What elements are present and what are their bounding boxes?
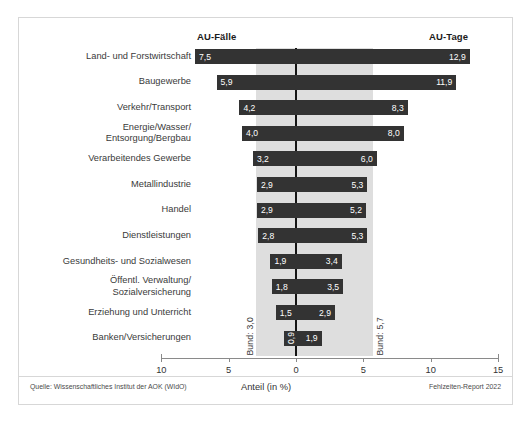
bund-right-annotation: Bund: 5,7 <box>375 317 385 356</box>
bar-row: Metallindustrie2,95,3 <box>19 177 513 192</box>
diverging-bar: 1,83,5 <box>272 279 343 294</box>
chart-figure: AU-Fälle AU-Tage Land- und Forstwirtscha… <box>18 17 513 405</box>
diverging-bar: 2,95,2 <box>257 203 366 218</box>
plot-area: Land- und Forstwirtschaft7,512,9Baugewer… <box>19 48 513 358</box>
bar-value-left: 3,2 <box>257 154 269 164</box>
x-axis-tick-label: 0 <box>293 365 298 375</box>
category-label: Land- und Forstwirtschaft <box>86 51 191 63</box>
category-label: Banken/Versicherungen <box>92 332 191 344</box>
bar-row: Verkehr/Transport4,28,3 <box>19 100 513 115</box>
diverging-bar: 7,512,9 <box>195 49 470 64</box>
bar-row: Baugewerbe5,911,9 <box>19 75 513 90</box>
bar-value-left: 5,9 <box>221 77 233 87</box>
bar-value-right: 5,2 <box>350 205 362 215</box>
bar-value-right: 2,9 <box>319 308 331 318</box>
bar-value-right: 1,9 <box>306 333 318 343</box>
diverging-bar: 2,85,3 <box>258 228 367 243</box>
x-axis-tick <box>229 358 230 362</box>
category-label: Öffentl. Verwaltung/ Sozialversicherung <box>110 275 191 298</box>
x-axis-tick-label: 10 <box>426 365 436 375</box>
bar-value-right: 6,0 <box>361 154 373 164</box>
x-axis-tick-label: 15 <box>493 365 503 375</box>
bund-left-annotation: Bund: 3,0 <box>245 317 255 356</box>
bar-value-right: 12,9 <box>449 52 466 62</box>
bar-value-right: 8,3 <box>392 103 404 113</box>
x-axis: 105051015 Anteil (in %) <box>19 358 513 404</box>
category-label: Energie/Wasser/ Entsorgung/Bergbau <box>106 122 191 145</box>
diverging-bar: 1,93,4 <box>270 254 341 269</box>
x-axis-tick <box>431 358 432 362</box>
bar-value-left: 2,9 <box>261 205 273 215</box>
diverging-bar: 3,26,0 <box>253 151 377 166</box>
bar-value-left: 0,9 <box>286 332 296 344</box>
bar-value-left: 2,9 <box>261 180 273 190</box>
bar-row: Erziehung und Unterricht1,52,9 <box>19 305 513 320</box>
legend-label-au-tage: AU-Tage <box>429 31 468 42</box>
x-axis-tick <box>161 358 162 362</box>
category-label: Metallindustrie <box>131 179 191 191</box>
category-label: Erziehung und Unterricht <box>88 307 191 319</box>
bar-value-right: 3,5 <box>327 282 339 292</box>
bar-row: Land- und Forstwirtschaft7,512,9 <box>19 49 513 64</box>
report-note: Fehlzeiten-Report 2022 <box>429 383 501 390</box>
diverging-bar: 1,52,9 <box>276 305 335 320</box>
bar-row: Handel2,95,2 <box>19 203 513 218</box>
x-axis-tick-label: 10 <box>156 365 166 375</box>
bar-value-right: 8,0 <box>388 128 400 138</box>
bar-row: Dienstleistungen2,85,3 <box>19 228 513 243</box>
diverging-bar: 2,95,3 <box>257 177 367 192</box>
x-axis-tick-label: 5 <box>226 365 231 375</box>
category-label: Dienstleistungen <box>122 230 191 242</box>
bar-value-right: 11,9 <box>436 77 452 87</box>
bar-value-right: 5,3 <box>351 180 363 190</box>
diverging-bar: 4,08,0 <box>242 126 404 141</box>
x-axis-tick <box>363 358 364 362</box>
source-note: Quelle: Wissenschaftliches Institut der … <box>30 383 187 390</box>
legend-label-au-faelle: AU-Fälle <box>197 31 236 42</box>
bar-row: Banken/Versicherungen0,91,9 <box>19 331 513 346</box>
x-axis-tick <box>498 358 499 362</box>
bar-row: Energie/Wasser/ Entsorgung/Bergbau4,08,0 <box>19 126 513 141</box>
bar-value-left: 4,0 <box>246 128 258 138</box>
bar-row: Gesundheits- und Sozialwesen1,93,4 <box>19 254 513 269</box>
x-axis-tick-label: 5 <box>361 365 366 375</box>
bar-value-left: 1,9 <box>274 256 286 266</box>
bar-value-left: 1,8 <box>276 282 288 292</box>
bar-value-left: 4,2 <box>243 103 255 113</box>
bar-row: Verarbeitendes Gewerbe3,26,0 <box>19 151 513 166</box>
category-label: Gesundheits- und Sozialwesen <box>63 256 191 268</box>
diverging-bar: 5,911,9 <box>217 75 457 90</box>
bar-value-right: 3,4 <box>326 256 338 266</box>
diverging-bar: 0,91,9 <box>284 331 322 346</box>
x-axis-line <box>161 358 498 359</box>
category-label: Verkehr/Transport <box>117 102 191 114</box>
diverging-bar: 4,28,3 <box>239 100 407 115</box>
category-label: Verarbeitendes Gewerbe <box>88 153 191 165</box>
category-label: Handel <box>162 204 191 216</box>
bar-value-left: 1,5 <box>280 308 292 318</box>
bar-value-left: 7,5 <box>199 52 211 62</box>
bar-value-left: 2,8 <box>262 231 274 241</box>
bar-row: Öffentl. Verwaltung/ Sozialversicherung1… <box>19 279 513 294</box>
footer-divider <box>19 376 512 377</box>
bar-value-right: 5,3 <box>351 231 363 241</box>
category-label: Baugewerbe <box>139 76 191 88</box>
x-axis-tick <box>296 358 297 362</box>
